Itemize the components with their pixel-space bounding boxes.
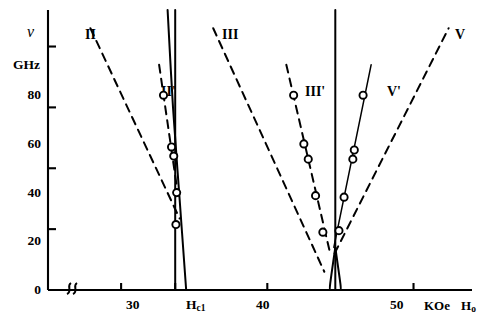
curve-v	[335, 28, 449, 253]
data-point-iii--4	[319, 229, 326, 236]
axes-layer	[48, 10, 472, 294]
curve-ii	[90, 28, 179, 218]
data-point-v--2	[349, 156, 356, 163]
data-point-ii--1	[168, 143, 175, 150]
data-point-iii--1	[300, 140, 307, 147]
data-point-v--1	[340, 194, 347, 201]
data-point-v--0	[335, 227, 342, 234]
data-point-v--4	[359, 92, 366, 99]
data-point-ii--3	[173, 189, 180, 196]
data-point-iii--2	[305, 156, 312, 163]
curves-layer	[90, 10, 448, 290]
data-point-v--3	[351, 146, 358, 153]
chart-plot-area	[0, 0, 485, 331]
data-point-iii--0	[290, 92, 297, 99]
data-point-ii--4	[172, 221, 179, 228]
data-point-iii--3	[312, 192, 319, 199]
data-point-ii--2	[170, 152, 177, 159]
axis-break-icon	[67, 283, 77, 294]
curve-iii	[213, 28, 324, 271]
data-point-ii--0	[160, 92, 167, 99]
